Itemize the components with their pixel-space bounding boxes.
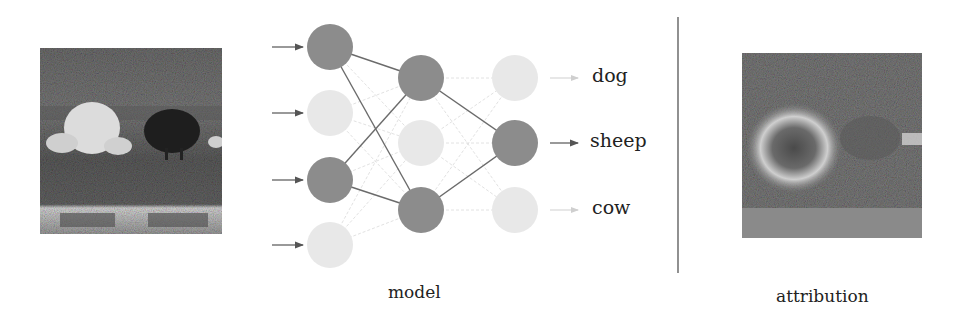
attribution-caption: attribution [776, 286, 869, 306]
input-layer [307, 24, 353, 268]
attribution-image [742, 53, 922, 238]
input-arrows [272, 47, 303, 245]
output-label-dog: dog [592, 64, 628, 86]
output-layer [492, 55, 538, 233]
output-label-sheep: sheep [590, 129, 647, 151]
output-label-cow: cow [592, 196, 630, 218]
hidden-layer [398, 55, 444, 233]
model-caption: model [388, 282, 441, 302]
